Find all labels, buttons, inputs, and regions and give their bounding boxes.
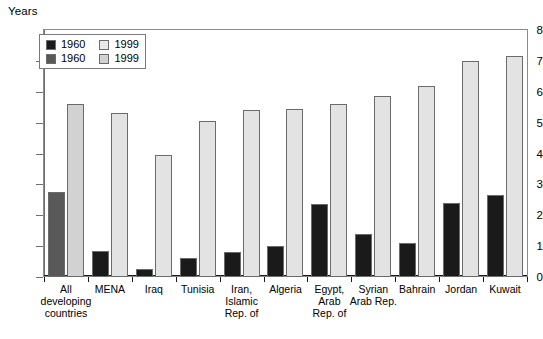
legend-swatch-icon — [46, 54, 56, 64]
bar-group — [264, 30, 308, 277]
x-tick-mark — [88, 277, 89, 282]
x-tick-mark — [264, 277, 265, 282]
y-axis-title: Years — [8, 5, 38, 17]
y-tick-mark — [36, 154, 43, 155]
x-tick-mark — [307, 277, 308, 282]
legend-label: 1999 — [114, 39, 138, 50]
bar-1999 — [199, 121, 216, 277]
legend-swatch-icon — [99, 54, 109, 64]
bar-1960 — [399, 243, 416, 277]
x-tick-mark — [44, 277, 45, 282]
legend-label: 1960 — [61, 39, 85, 50]
legend-swatch-icon — [46, 40, 56, 50]
legend-item: 1999 — [99, 53, 138, 64]
y-tick-mark — [36, 184, 43, 185]
bar-1960 — [355, 234, 372, 277]
bar-1960 — [180, 258, 197, 277]
x-axis-label: Kuwait — [477, 283, 533, 295]
x-tick-mark — [176, 277, 177, 282]
bar-1999 — [418, 86, 435, 277]
legend-item: 1960 — [46, 53, 85, 64]
bar-1960 — [224, 252, 241, 277]
bar-1999 — [374, 96, 391, 277]
x-tick-mark — [395, 277, 396, 282]
bar-1960 — [48, 192, 65, 277]
bar-1999 — [286, 109, 303, 277]
x-tick-mark — [439, 277, 440, 282]
y-tick-mark — [36, 246, 43, 247]
bar-group — [351, 30, 395, 277]
bar-group — [439, 30, 483, 277]
bar-1999 — [111, 113, 128, 277]
y-tick-mark — [36, 277, 43, 278]
bar-1999 — [462, 61, 479, 277]
bar-group — [307, 30, 351, 277]
x-tick-mark — [483, 277, 484, 282]
bar-1960 — [92, 251, 109, 277]
bar-chart: Years 876543210 All developing countries… — [0, 0, 543, 339]
legend-label: 1960 — [61, 53, 85, 64]
legend-label: 1999 — [114, 53, 138, 64]
y-tick-mark — [36, 92, 43, 93]
bar-1999 — [330, 104, 347, 277]
legend-swatch-icon — [99, 40, 109, 50]
x-tick-mark — [220, 277, 221, 282]
bar-group — [395, 30, 439, 277]
bar-1960 — [136, 269, 153, 277]
bar-1960 — [487, 195, 504, 277]
bar-1999 — [243, 110, 260, 277]
bar-group — [483, 30, 527, 277]
x-tick-mark — [351, 277, 352, 282]
bar-group — [176, 30, 220, 277]
legend-item: 1999 — [99, 39, 138, 50]
bar-1960 — [311, 204, 328, 277]
y-tick-mark — [36, 123, 43, 124]
x-tick-mark — [527, 277, 528, 282]
bar-group — [220, 30, 264, 277]
bar-1999 — [506, 56, 523, 277]
bar-1999 — [155, 155, 172, 277]
legend-item: 1960 — [46, 39, 85, 50]
y-tick-mark — [36, 215, 43, 216]
bar-1999 — [67, 104, 84, 277]
legend: 1960199919601999 — [39, 34, 146, 69]
bar-1960 — [267, 246, 284, 277]
x-tick-mark — [132, 277, 133, 282]
bar-1960 — [443, 203, 460, 277]
